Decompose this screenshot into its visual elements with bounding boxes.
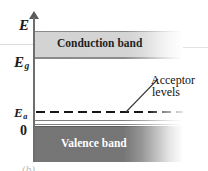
axis-label-energy: E <box>19 18 29 33</box>
axis-label-acceptor-energy: Ea <box>14 106 27 119</box>
energy-band-diagram: E Eg Ea 0 Conduction band Valence band A… <box>0 0 208 171</box>
acceptor-levels-annotation: Acceptor levels <box>151 74 195 98</box>
panel-caption: (b) <box>22 164 35 171</box>
acceptor-levels-annotation-line-2: levels <box>151 86 195 98</box>
acceptor-levels-fade-mask <box>148 109 188 115</box>
axis-label-acceptor-energy-symbol: E <box>14 105 23 120</box>
conduction-band-lower-edge <box>35 57 183 59</box>
axis-label-zero: 0 <box>20 124 27 138</box>
axis-label-band-gap: Eg <box>14 55 29 70</box>
axis-label-acceptor-energy-subscript: a <box>23 112 27 121</box>
valence-band-label: Valence band <box>61 138 127 150</box>
axis-label-band-gap-subscript: g <box>25 60 30 71</box>
conduction-band-label: Conduction band <box>57 38 142 50</box>
valence-band-lower-thin-rule <box>35 124 183 125</box>
axis-label-band-gap-symbol: E <box>14 54 24 70</box>
scan-artifact-line-left <box>0 44 34 45</box>
valence-band-upper-thin-rule <box>35 120 183 121</box>
